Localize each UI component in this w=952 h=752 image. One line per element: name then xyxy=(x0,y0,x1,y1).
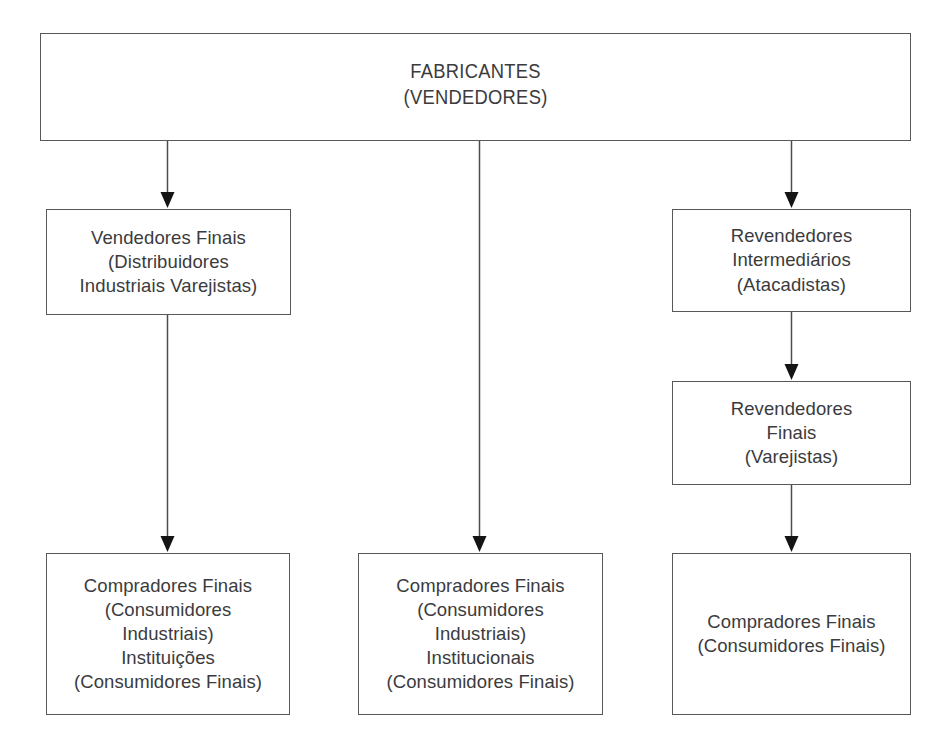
node-compradores-finais-esquerda: Compradores Finais (Consumidores Industr… xyxy=(46,553,290,715)
node-revendedores-intermediarios-label: Revendedores Intermediários (Atacadistas… xyxy=(725,224,859,296)
node-fabricantes-label: FABRICANTES (VENDEDORES) xyxy=(398,34,553,110)
edge-left-1-to-left-2 xyxy=(161,315,175,552)
edge-right-2-to-right-3 xyxy=(785,485,799,552)
edge-root-to-left-1 xyxy=(161,141,175,208)
node-fabricantes: FABRICANTES (VENDEDORES) xyxy=(40,33,911,141)
diagram-canvas: FABRICANTES (VENDEDORES) Vendedores Fina… xyxy=(0,0,952,752)
edge-right-1-to-right-2 xyxy=(785,312,799,380)
node-compradores-finais-direita-label: Compradores Finais (Consumidores Finais) xyxy=(691,610,891,658)
node-compradores-finais-esquerda-label: Compradores Finais (Consumidores Industr… xyxy=(68,574,268,694)
node-vendedores-finais: Vendedores Finais (Distribuidores Indust… xyxy=(46,209,291,315)
edge-root-to-middle-1 xyxy=(473,141,487,552)
node-compradores-finais-direita: Compradores Finais (Consumidores Finais) xyxy=(672,553,911,715)
node-vendedores-finais-label: Vendedores Finais (Distribuidores Indust… xyxy=(74,226,264,298)
node-revendedores-intermediarios: Revendedores Intermediários (Atacadistas… xyxy=(672,209,911,312)
edge-root-to-right-1 xyxy=(785,141,799,208)
node-revendedores-finais: Revendedores Finais (Varejistas) xyxy=(672,381,911,485)
node-revendedores-finais-label: Revendedores Finais (Varejistas) xyxy=(725,397,859,469)
node-compradores-finais-centro: Compradores Finais (Consumidores Industr… xyxy=(358,553,603,715)
node-compradores-finais-centro-label: Compradores Finais (Consumidores Industr… xyxy=(380,574,580,694)
